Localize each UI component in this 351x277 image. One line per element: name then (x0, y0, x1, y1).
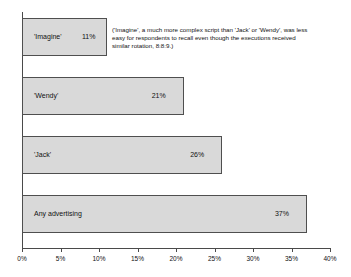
x-axis-tick-label: 25% (200, 255, 230, 262)
bar-category-label: 'Jack' (34, 136, 51, 174)
bar-value-label: 37% (275, 195, 289, 233)
bar-chart: 'Imagine'11%'Wendy'21%'Jack'26%Any adver… (0, 0, 351, 277)
x-axis-tick (138, 248, 139, 252)
bar-value-label: 21% (152, 77, 166, 115)
x-axis-tick (22, 248, 23, 252)
x-axis-tick-label: 30% (238, 255, 268, 262)
x-axis-tick (292, 248, 293, 252)
bar-value-label: 11% (82, 18, 96, 56)
x-axis-tick (215, 248, 216, 252)
x-axis-tick-label: 10% (84, 255, 114, 262)
x-axis-tick-label: 40% (315, 255, 345, 262)
annotation-line-1: ('Imagine', a much more complex script t… (112, 26, 340, 34)
bar-category-label: 'Wendy' (34, 77, 58, 115)
x-axis-tick-label: 15% (123, 255, 153, 262)
bar-category-label: Any advertising (34, 195, 82, 233)
chart-annotation: ('Imagine', a much more complex script t… (112, 26, 340, 51)
x-axis-tick-label: 35% (277, 255, 307, 262)
bar-value-label: 26% (190, 136, 204, 174)
annotation-line-2: easy for respondents to recall even thou… (112, 34, 340, 42)
x-axis-tick (253, 248, 254, 252)
bar-category-label: 'Imagine' (34, 18, 62, 56)
x-axis-tick (330, 248, 331, 252)
x-axis-tick-label: 5% (46, 255, 76, 262)
x-axis-tick (61, 248, 62, 252)
x-axis-tick (99, 248, 100, 252)
x-axis-tick-label: 20% (161, 255, 191, 262)
x-axis-tick (176, 248, 177, 252)
annotation-line-3: similar rotation, 8:8:9.) (112, 42, 340, 50)
bar-row: 'Wendy'21% (22, 77, 330, 115)
bar-row: 'Jack'26% (22, 136, 330, 174)
bar-row: Any advertising37% (22, 195, 330, 233)
x-axis-tick-label: 0% (7, 255, 37, 262)
